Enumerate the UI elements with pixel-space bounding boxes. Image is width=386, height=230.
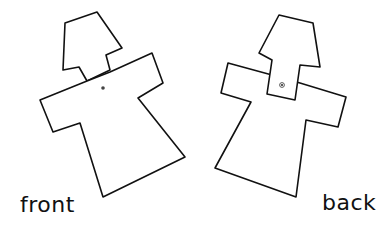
back-label: back xyxy=(322,190,376,215)
front-dress-body xyxy=(40,53,185,197)
back-figure xyxy=(215,15,346,197)
front-label: front xyxy=(20,192,75,217)
back-fastener-dot-icon xyxy=(281,84,283,86)
front-figure xyxy=(40,12,185,197)
front-fastener-dot-icon xyxy=(101,86,105,90)
